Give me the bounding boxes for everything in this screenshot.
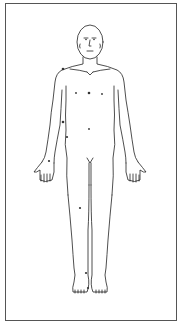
mark-left-shoulder bbox=[62, 68, 65, 71]
right-eye bbox=[93, 39, 95, 41]
torso bbox=[42, 57, 138, 195]
body-marks bbox=[48, 68, 103, 289]
mark-forearm bbox=[66, 136, 68, 138]
mark-foot bbox=[87, 287, 89, 289]
mark-chest-right bbox=[101, 93, 103, 95]
legs bbox=[68, 158, 112, 293]
mark-chest-center bbox=[88, 92, 91, 95]
mark-abdomen bbox=[88, 128, 90, 130]
head bbox=[77, 25, 103, 59]
mark-upper-arm bbox=[62, 121, 65, 124]
mark-chest-left bbox=[75, 92, 77, 94]
mark-wrist bbox=[48, 160, 50, 162]
left-hand bbox=[34, 162, 54, 182]
left-eye bbox=[85, 39, 87, 41]
mark-ankle bbox=[85, 272, 87, 274]
mark-thigh bbox=[79, 207, 81, 209]
right-hand bbox=[126, 162, 146, 182]
body-diagram bbox=[0, 0, 185, 328]
